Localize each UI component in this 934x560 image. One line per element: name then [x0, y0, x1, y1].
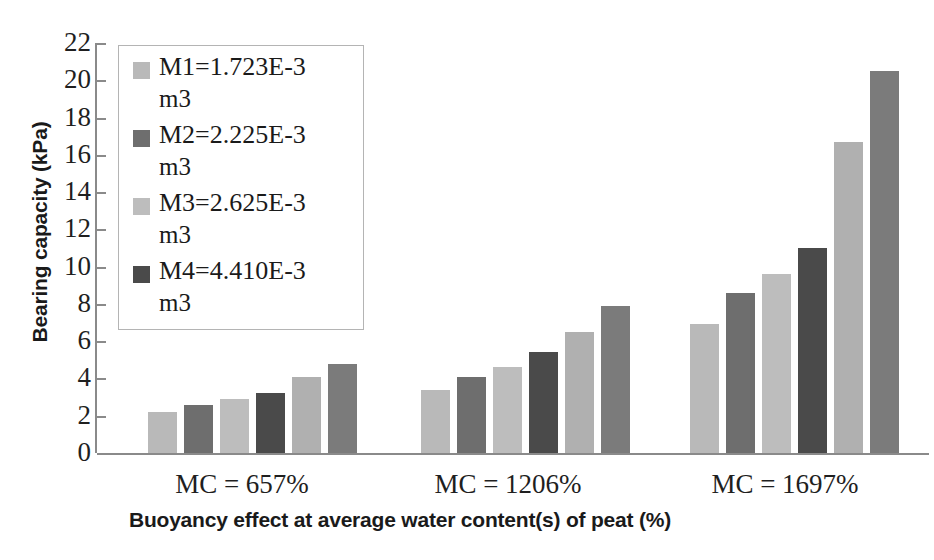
x-axis-title: Buoyancy effect at average water content…	[0, 508, 800, 532]
category-label: MC = 1697%	[675, 469, 895, 500]
bar	[256, 393, 285, 453]
legend-item[interactable]: M3=2.625E-3m3	[119, 190, 363, 258]
x-axis-baseline	[97, 453, 929, 455]
bar	[798, 248, 827, 453]
y-axis-title: Bearing capacity (kPa)	[28, 52, 52, 412]
bar	[762, 274, 791, 453]
legend-swatch-icon	[133, 130, 150, 147]
bar	[726, 293, 755, 453]
bar	[601, 306, 630, 453]
legend-label: M2=2.225E-3m3	[159, 118, 306, 183]
bar	[834, 142, 863, 453]
legend-label-unit: m3	[159, 83, 306, 115]
y-axis-tick-label: 20	[64, 66, 91, 93]
y-axis-tick-label: 10	[64, 253, 91, 280]
bar	[292, 377, 321, 453]
category-label: MC = 1206%	[398, 469, 618, 500]
legend-label-unit: m3	[159, 151, 306, 183]
legend-label: M1=1.723E-3m3	[159, 50, 306, 115]
chart-legend: M1=1.723E-3m3M2=2.225E-3m3M3=2.625E-3m3M…	[118, 45, 364, 330]
y-axis-tick-label: 14	[64, 178, 91, 205]
bar	[184, 405, 213, 453]
bar	[870, 71, 899, 453]
bar	[565, 332, 594, 453]
y-axis-tick-label: 2	[78, 402, 92, 429]
legend-swatch-icon	[133, 62, 150, 79]
y-axis-tick-label: 22	[64, 29, 91, 56]
bar	[148, 412, 177, 453]
legend-label-unit: m3	[159, 219, 306, 251]
legend-swatch-icon	[133, 198, 150, 215]
bar	[421, 390, 450, 453]
legend-label: M4=4.410E-3m3	[159, 254, 306, 319]
bar	[328, 364, 357, 453]
chart-page: Bearing capacity (kPa) 22201816141210864…	[0, 0, 934, 560]
bar	[690, 324, 719, 453]
y-axis-tick-label: 18	[64, 104, 91, 131]
legend-swatch-icon	[133, 266, 150, 283]
y-axis-tick-label: 4	[78, 364, 92, 391]
legend-item[interactable]: M2=2.225E-3m3	[119, 122, 363, 190]
bar	[457, 377, 486, 453]
bar-group	[690, 43, 906, 453]
y-axis-tick-label: 8	[78, 290, 92, 317]
legend-label-unit: m3	[159, 287, 306, 319]
category-label: MC = 657%	[132, 469, 352, 500]
bar	[493, 367, 522, 453]
y-axis-tick-label: 16	[64, 141, 91, 168]
legend-label: M3=2.625E-3m3	[159, 186, 306, 251]
bar-group	[421, 43, 637, 453]
legend-item[interactable]: M4=4.410E-3m3	[119, 258, 363, 326]
y-axis-tick-label: 6	[78, 327, 92, 354]
y-axis-tick-label: 0	[78, 439, 92, 466]
y-axis-tick-label: 12	[64, 215, 91, 242]
legend-item[interactable]: M1=1.723E-3m3	[119, 54, 363, 122]
bar	[220, 399, 249, 453]
bar	[529, 352, 558, 453]
